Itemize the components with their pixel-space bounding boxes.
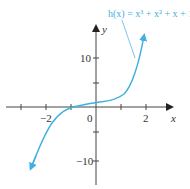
function-label: h(x) = x³ + x² + x + 1 <box>108 8 190 20</box>
function-graph: −2 0 2 10 −10 x y h(x) = x³ + x² + x + 1 <box>0 0 190 189</box>
x-tick-label-2: 2 <box>143 112 149 124</box>
label-leader-line <box>122 20 135 58</box>
function-curve-start-arrow <box>31 156 36 168</box>
y-tick-label-neg10: −10 <box>76 155 94 167</box>
y-axis-label: y <box>101 23 107 35</box>
x-tick-label-neg2: −2 <box>40 112 52 124</box>
x-axis-label: x <box>170 112 176 124</box>
y-tick-label-10: 10 <box>80 52 92 64</box>
x-tick-label-0: 0 <box>87 112 93 124</box>
